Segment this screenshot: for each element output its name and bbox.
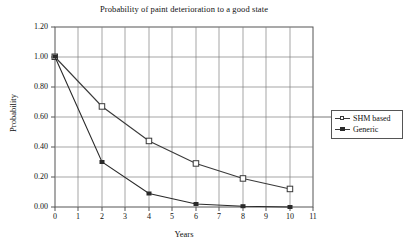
legend-label-shm-based: SHM based [353, 114, 391, 123]
x-axis-ticks [55, 207, 313, 211]
legend-marker-open-square-icon [335, 114, 350, 123]
chart-legend[interactable]: SHM based Generic [331, 110, 403, 139]
legend-item-shm-based[interactable]: SHM based [335, 113, 399, 124]
legend-item-generic[interactable]: Generic [335, 124, 399, 135]
legend-marker-filled-square-icon [335, 125, 350, 134]
legend-label-generic: Generic [353, 125, 378, 134]
chart-figure: Probability of paint deterioration to a … [0, 0, 410, 252]
